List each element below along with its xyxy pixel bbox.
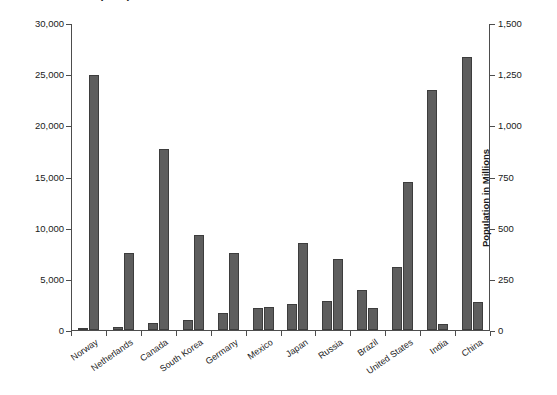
category-label: Russia [316,337,344,361]
left-tick-mark [66,178,71,179]
chart-title: Countries (kWh) [44,0,464,1]
bar-kwh [194,235,204,330]
chart-figure: Countries (kWh) 05,00010,00015,00020,000… [0,0,557,395]
right-tick-label: 1,000 [498,122,522,132]
left-axis-line [71,24,72,331]
x-tick-mark [420,331,421,336]
bar-kwh [473,302,483,330]
x-tick-mark [106,331,107,336]
bar-kwh [298,243,308,330]
x-tick-mark [315,331,316,336]
x-tick-mark [176,331,177,336]
left-tick-label: 20,000 [35,122,64,132]
left-tick-mark [66,75,71,76]
x-tick-mark [455,331,456,336]
x-tick-mark [211,331,212,336]
bar-kwh [229,253,239,330]
right-tick-label: 250 [498,275,514,285]
bar-population [113,327,123,330]
left-tick-mark [66,229,71,230]
left-tick-label: 30,000 [35,19,64,29]
left-tick-mark [66,24,71,25]
x-tick-mark [281,331,282,336]
x-tick-mark [385,331,386,336]
bar-population [462,57,472,330]
x-tick-mark [71,331,72,336]
left-tick-mark [66,126,71,127]
bar-kwh [124,253,134,330]
left-tick-label: 5,000 [40,275,64,285]
bar-population [427,90,437,330]
bar-kwh [403,182,413,330]
bar-kwh [89,75,99,330]
right-tick-mark [490,178,495,179]
right-tick-mark [490,229,495,230]
left-tick-label: 10,000 [35,224,64,234]
bar-population [253,308,263,331]
category-label: Mexico [246,337,275,362]
left-tick-mark [66,280,71,281]
right-tick-mark [490,280,495,281]
right-axis-title: Population in Millions [480,148,491,246]
left-tick-label: 15,000 [35,173,64,183]
bar-kwh [159,149,169,330]
right-tick-label: 1,250 [498,70,522,80]
right-tick-label: 0 [498,326,503,336]
category-label: India [428,337,450,356]
bar-population [357,290,367,330]
right-tick-mark [490,24,495,25]
bar-population [218,313,228,330]
plot-area: 05,00010,00015,00020,00025,00030,000 025… [71,24,490,331]
right-tick-mark [490,75,495,76]
bar-population [322,301,332,330]
right-tick-label: 750 [498,173,514,183]
x-tick-mark [246,331,247,336]
bar-population [183,320,193,330]
bar-kwh [264,307,274,330]
x-tick-mark [490,331,491,336]
category-label: China [459,337,484,359]
x-tick-mark [141,331,142,336]
right-tick-label: 1,500 [498,19,522,29]
bar-population [148,323,158,330]
left-tick-label: 0 [59,326,64,336]
bar-population [287,304,297,330]
bar-population [392,267,402,330]
bar-population [78,328,88,330]
category-label: Brazil [355,337,379,358]
left-tick-label: 25,000 [35,70,64,80]
right-tick-mark [490,126,495,127]
bar-kwh [438,324,448,330]
bar-kwh [333,259,343,330]
category-label: Germany [204,337,240,366]
category-label: Japan [284,337,310,359]
x-tick-mark [350,331,351,336]
right-tick-label: 500 [498,224,514,234]
bar-kwh [368,308,378,331]
